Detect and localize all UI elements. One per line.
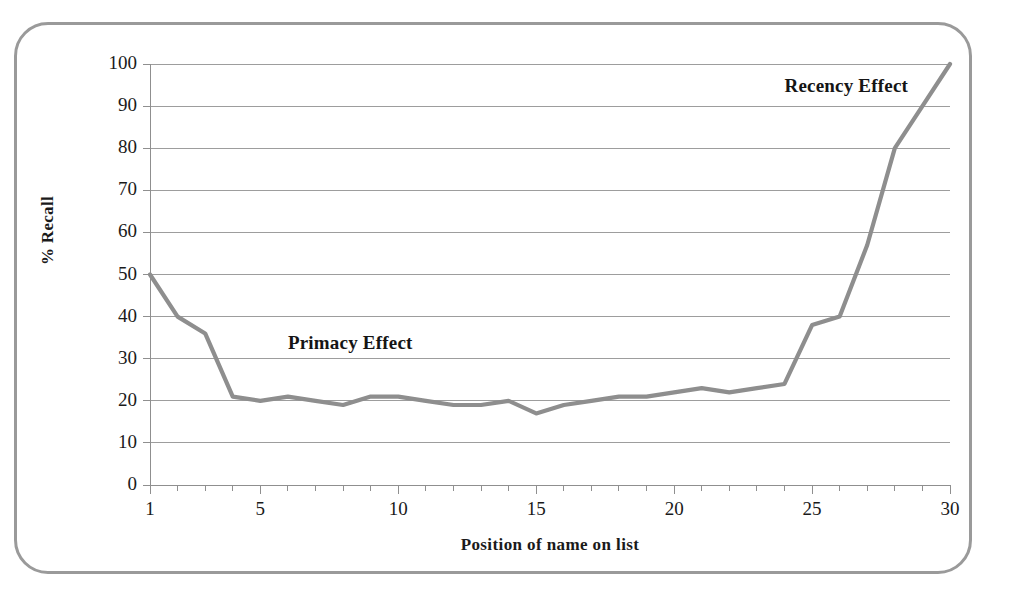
x-axis-ticks bbox=[150, 485, 950, 494]
x-tick-label: 20 bbox=[649, 498, 699, 520]
y-tick-label: 70 bbox=[91, 178, 137, 200]
primacy-effect-annotation: Primacy Effect bbox=[288, 332, 413, 354]
chart-plot-area: 0102030405060708090100 151015202530 Prim… bbox=[0, 0, 1020, 609]
recency-effect-annotation: Recency Effect bbox=[784, 75, 908, 97]
y-tick-label: 0 bbox=[91, 473, 137, 495]
x-tick-label: 10 bbox=[373, 498, 423, 520]
y-tick-label: 60 bbox=[91, 220, 137, 242]
serial-position-curve-figure: 0102030405060708090100 151015202530 Prim… bbox=[0, 0, 1020, 609]
gridlines bbox=[150, 64, 950, 485]
y-tick-label: 30 bbox=[91, 347, 137, 369]
x-tick-label: 15 bbox=[511, 498, 561, 520]
y-tick-label: 90 bbox=[91, 94, 137, 116]
x-tick-label: 1 bbox=[125, 498, 175, 520]
y-tick-label: 20 bbox=[91, 389, 137, 411]
y-tick-label: 50 bbox=[91, 263, 137, 285]
y-tick-label: 10 bbox=[91, 431, 137, 453]
recall-series-line bbox=[150, 64, 950, 413]
x-tick-label: 5 bbox=[235, 498, 285, 520]
y-tick-label: 100 bbox=[91, 52, 137, 74]
y-axis-title: % Recall bbox=[38, 196, 58, 265]
y-tick-label: 80 bbox=[91, 136, 137, 158]
x-axis-title: Position of name on list bbox=[461, 535, 640, 555]
x-tick-label: 30 bbox=[925, 498, 975, 520]
y-tick-label: 40 bbox=[91, 305, 137, 327]
x-tick-label: 25 bbox=[787, 498, 837, 520]
